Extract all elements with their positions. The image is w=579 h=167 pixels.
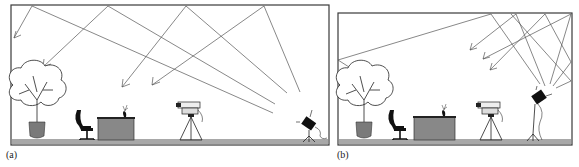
floor [12, 139, 328, 144]
panel-b [336, 13, 572, 145]
caption-a: (a) [6, 149, 17, 160]
panel-a [9, 5, 329, 145]
caption-b: (b) [337, 149, 349, 160]
figure-canvas [0, 0, 579, 167]
